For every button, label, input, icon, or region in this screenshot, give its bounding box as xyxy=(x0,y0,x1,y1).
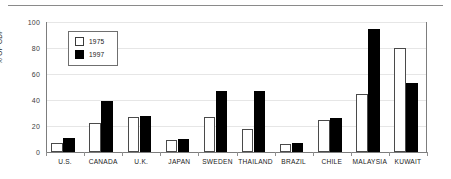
y-tick-label: 60 xyxy=(16,71,40,78)
x-tick-label: JAPAN xyxy=(160,158,198,166)
x-tick-label: SWEDEN xyxy=(198,158,236,166)
category-separator-tick xyxy=(122,152,123,156)
category-separator-tick xyxy=(160,152,161,156)
bar-1975-kuwait xyxy=(394,48,406,152)
category-separator-tick xyxy=(237,152,238,156)
x-axis-tick-labels: U.S.CANADAU.K.JAPANSWEDENTHAILANDBRAZILC… xyxy=(46,158,427,170)
category-separator-tick xyxy=(313,152,314,156)
y-tick-label: 80 xyxy=(16,45,40,52)
category-separator-tick xyxy=(351,152,352,156)
x-tick-label: U.S. xyxy=(46,158,84,166)
category-separator-tick xyxy=(46,152,47,156)
bar-1997-kuwait xyxy=(406,83,418,152)
y-tick-label: 40 xyxy=(16,97,40,104)
x-tick-label: CHILE xyxy=(313,158,351,166)
hollow-square-icon xyxy=(75,37,84,46)
legend-label-1997: 1997 xyxy=(89,51,104,59)
y-tick-label: 0 xyxy=(16,149,40,156)
x-tick-label: BRAZIL xyxy=(275,158,313,166)
category-separator-tick xyxy=(389,152,390,156)
x-tick-label: THAILAND xyxy=(237,158,275,166)
x-tick-label: CANADA xyxy=(84,158,122,166)
chart-figure: % OF GDP 020406080100 U.S.CANADAU.K.JAPA… xyxy=(0,0,451,179)
y-tick-label: 100 xyxy=(16,19,40,26)
x-tick-label: KUWAIT xyxy=(389,158,427,166)
y-axis-title: % OF GDP xyxy=(0,29,3,64)
x-tick-label: MALAYSIA xyxy=(351,158,389,166)
category-separator-tick xyxy=(84,152,85,156)
chart-legend: 1975 1997 xyxy=(68,31,118,66)
category-separator-tick xyxy=(427,152,428,156)
legend-label-1975: 1975 xyxy=(89,38,104,46)
category-separator-tick xyxy=(198,152,199,156)
top-divider-rule xyxy=(8,5,443,6)
x-tick-label: U.K. xyxy=(122,158,160,166)
filled-square-icon xyxy=(75,50,84,59)
y-tick-label: 20 xyxy=(16,123,40,130)
category-separator-tick xyxy=(275,152,276,156)
